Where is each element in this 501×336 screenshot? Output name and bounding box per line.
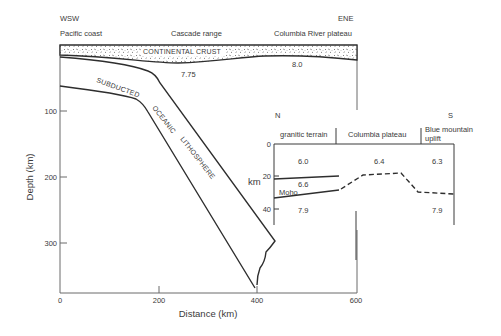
y-tick-label-200: 200 xyxy=(44,173,57,182)
moho-label: Moho xyxy=(279,188,298,197)
location-columbia-river-plateau: Columbia River plateau xyxy=(274,29,352,38)
inset-y-axis-title: km xyxy=(248,176,261,187)
velocity-6-3: 6.3 xyxy=(432,157,442,166)
velocity-6-6: 6.6 xyxy=(298,180,308,189)
region-granitic-terrain: granitic terrain xyxy=(280,130,328,139)
velocity-8-0: 8.0 xyxy=(292,60,302,69)
direction-s-label: S xyxy=(448,111,453,120)
y-tick-label-100: 100 xyxy=(44,107,57,116)
inset-tick-label-0: 0 xyxy=(267,140,271,149)
inset-section: N S granitic terrain Columbia plateau Bl… xyxy=(248,110,473,260)
x-tick-label-200: 200 xyxy=(153,296,166,305)
location-pacific-coast: Pacific coast xyxy=(60,29,103,38)
direction-ene-label: ENE xyxy=(338,14,353,23)
inset-tick-label-40: 40 xyxy=(263,205,271,214)
x-tick-label-0: 0 xyxy=(58,296,62,305)
x-tick-label-400: 400 xyxy=(251,296,264,305)
location-cascade-range: Cascade range xyxy=(171,29,222,38)
slab-upper-boundary xyxy=(60,57,275,285)
y-tick-label-300: 300 xyxy=(44,239,57,248)
direction-wsw-label: WSW xyxy=(60,14,80,23)
velocity-6-4: 6.4 xyxy=(374,157,384,166)
region-blue-mountain: Blue mountain xyxy=(425,125,473,134)
velocity-6-0: 6.0 xyxy=(298,157,308,166)
crustal-cross-section-diagram: WSW ENE Pacific coast Cascade range Colu… xyxy=(0,0,501,336)
region-columbia-plateau: Columbia plateau xyxy=(348,130,406,139)
slab-label-oceanic: OCEANIC xyxy=(151,104,177,135)
x-tick-label-600: 600 xyxy=(350,296,363,305)
velocity-7-75: 7.75 xyxy=(181,70,196,79)
inset-tick-label-20: 20 xyxy=(263,172,271,181)
y-axis-title: Depth (km) xyxy=(24,154,35,201)
region-uplift: uplift xyxy=(425,134,442,143)
velocity-7-9-north: 7.9 xyxy=(298,206,308,215)
direction-n-label: N xyxy=(275,111,280,120)
continental-crust-label: CONTINENTAL CRUST xyxy=(143,48,222,55)
velocity-7-9-south: 7.9 xyxy=(432,206,442,215)
x-axis-title: Distance (km) xyxy=(179,308,238,319)
